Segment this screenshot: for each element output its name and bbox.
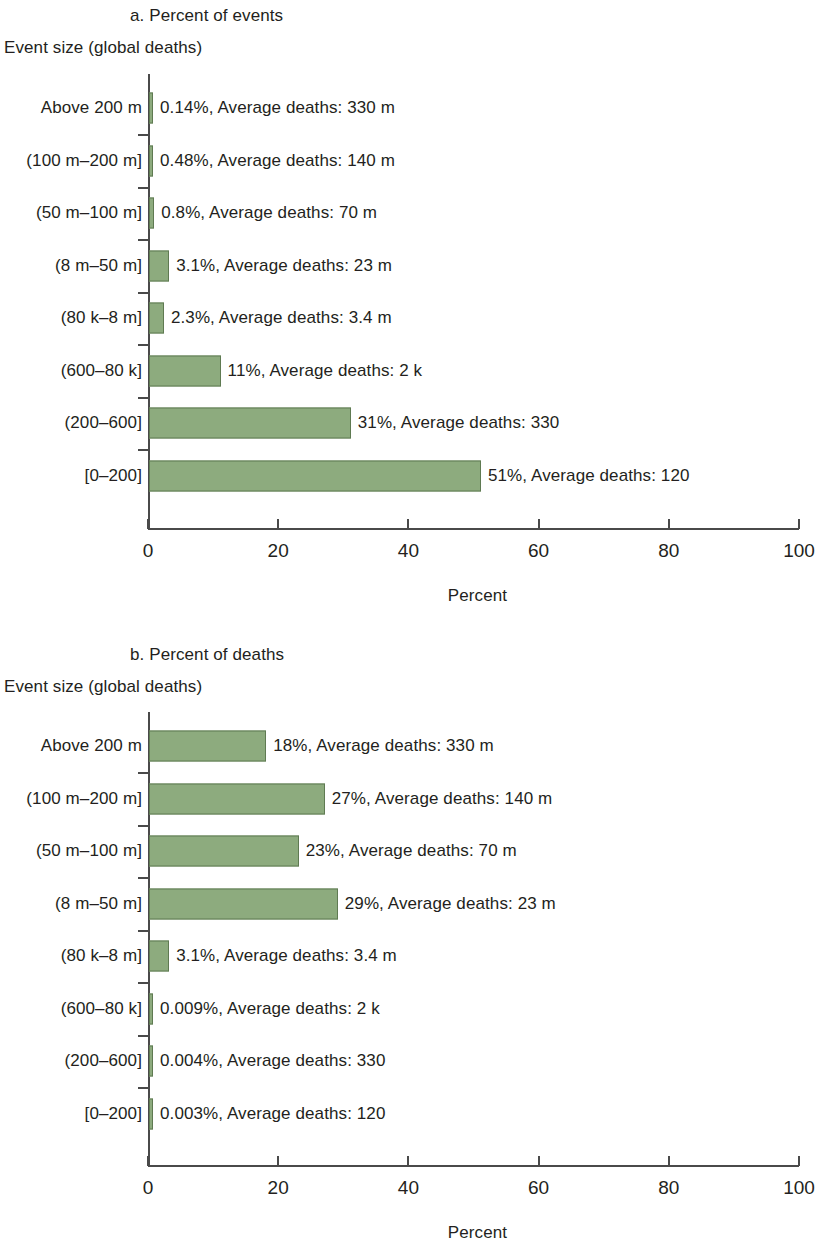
- bar: [149, 408, 351, 439]
- bar-value-label: 23%, Average deaths: 70 m: [306, 841, 517, 861]
- category-label: (600–80 k]: [61, 999, 142, 1019]
- x-axis-tick-label: 0: [143, 1177, 154, 1199]
- panel-a-title: a. Percent of events: [0, 6, 283, 26]
- bar-value-label: 2.3%, Average deaths: 3.4 m: [171, 308, 392, 328]
- category-label: Above 200 m: [41, 736, 142, 756]
- bar: [149, 93, 153, 124]
- y-axis-tick: [138, 877, 149, 879]
- bar: [149, 1046, 153, 1077]
- category-label: (200–600]: [65, 413, 142, 433]
- category-label: (600–80 k]: [61, 361, 142, 381]
- y-axis-tick: [138, 930, 149, 932]
- y-axis-tick: [138, 344, 149, 346]
- x-axis-tick: [538, 1156, 540, 1166]
- category-label: (8 m–50 m]: [55, 894, 142, 914]
- x-axis-tick: [668, 519, 670, 529]
- bar-value-label: 0.003%, Average deaths: 120: [160, 1104, 385, 1124]
- x-axis-tick-label: 80: [658, 540, 679, 562]
- bar: [149, 355, 221, 386]
- bar: [149, 303, 164, 334]
- y-axis-tick: [138, 982, 149, 984]
- bar-value-label: 0.004%, Average deaths: 330: [160, 1051, 385, 1071]
- x-axis-line: [148, 1165, 799, 1167]
- category-label: (50 m–100 m]: [36, 841, 142, 861]
- panel-a-y-axis-title: Event size (global deaths): [0, 38, 202, 58]
- bar: [149, 1098, 153, 1129]
- y-axis-tick: [138, 187, 149, 189]
- bar-value-label: 27%, Average deaths: 140 m: [332, 789, 553, 809]
- bar-value-label: 51%, Average deaths: 120: [488, 466, 690, 486]
- panel-b-title: b. Percent of deaths: [0, 645, 284, 665]
- x-axis-tick: [538, 519, 540, 529]
- category-label: (50 m–100 m]: [36, 203, 142, 223]
- y-axis-tick: [138, 449, 149, 451]
- y-axis-tick: [138, 292, 149, 294]
- x-axis-tick: [277, 519, 279, 529]
- bar-value-label: 29%, Average deaths: 23 m: [345, 894, 556, 914]
- category-label: (100 m–200 m]: [26, 789, 142, 809]
- bar: [149, 836, 299, 867]
- y-axis-tick: [138, 772, 149, 774]
- bar: [149, 941, 169, 972]
- y-axis-tick: [138, 1087, 149, 1089]
- x-axis-tick: [277, 1156, 279, 1166]
- bar: [149, 993, 153, 1024]
- x-axis-tick: [407, 1156, 409, 1166]
- x-axis-tick-label: 20: [268, 1177, 289, 1199]
- bar: [149, 888, 338, 919]
- bar-value-label: 0.009%, Average deaths: 2 k: [160, 999, 380, 1019]
- x-axis-tick-label: 0: [143, 540, 154, 562]
- x-axis-tick: [407, 519, 409, 529]
- x-axis-tick: [798, 1156, 800, 1166]
- category-label: (80 k–8 m]: [61, 308, 142, 328]
- x-axis-tick-label: 40: [398, 540, 419, 562]
- category-label: [0–200]: [85, 466, 142, 486]
- x-axis-title: Percent: [0, 586, 815, 606]
- x-axis-tick-label: 60: [528, 1177, 549, 1199]
- bar-value-label: 0.8%, Average deaths: 70 m: [161, 203, 377, 223]
- bar-value-label: 3.1%, Average deaths: 23 m: [176, 256, 392, 276]
- y-axis-tick: [138, 134, 149, 136]
- bar-value-label: 0.48%, Average deaths: 140 m: [160, 151, 395, 171]
- bar-value-label: 18%, Average deaths: 330 m: [273, 736, 494, 756]
- x-axis-tick-label: 100: [783, 540, 815, 562]
- category-label: [0–200]: [85, 1104, 142, 1124]
- bar: [149, 460, 481, 491]
- category-label: (100 m–200 m]: [26, 151, 142, 171]
- x-axis-tick: [147, 519, 149, 529]
- y-axis-tick: [138, 397, 149, 399]
- y-axis-tick: [138, 239, 149, 241]
- x-axis-tick-label: 100: [783, 1177, 815, 1199]
- x-axis-title: Percent: [0, 1223, 815, 1243]
- bar-value-label: 11%, Average deaths: 2 k: [228, 361, 423, 381]
- x-axis-tick: [798, 519, 800, 529]
- x-axis-tick-label: 20: [268, 540, 289, 562]
- bar: [149, 731, 266, 762]
- x-axis-line: [148, 528, 799, 530]
- bar: [149, 198, 154, 229]
- bar-value-label: 3.1%, Average deaths: 3.4 m: [176, 946, 397, 966]
- bar: [149, 250, 169, 281]
- category-label: (8 m–50 m]: [55, 256, 142, 276]
- bar-value-label: 0.14%, Average deaths: 330 m: [160, 98, 395, 118]
- category-label: Above 200 m: [41, 98, 142, 118]
- x-axis-tick-label: 40: [398, 1177, 419, 1199]
- bar-value-label: 31%, Average deaths: 330: [358, 413, 560, 433]
- x-axis-tick: [147, 1156, 149, 1166]
- category-label: (200–600]: [65, 1051, 142, 1071]
- x-axis-tick-label: 80: [658, 1177, 679, 1199]
- category-label: (80 k–8 m]: [61, 946, 142, 966]
- bar: [149, 145, 153, 176]
- y-axis-tick: [138, 825, 149, 827]
- bar: [149, 783, 325, 814]
- y-axis-tick: [138, 1035, 149, 1037]
- x-axis-tick: [668, 1156, 670, 1166]
- panel-b-y-axis-title: Event size (global deaths): [0, 677, 202, 697]
- x-axis-tick-label: 60: [528, 540, 549, 562]
